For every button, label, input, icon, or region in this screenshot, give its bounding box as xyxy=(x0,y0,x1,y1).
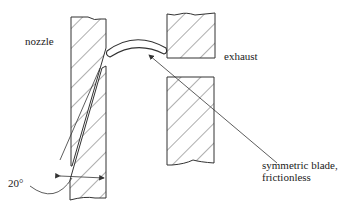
exhaust-upper-wall xyxy=(167,13,215,58)
angle-leader-curve xyxy=(30,178,72,194)
blade-label-line1: symmetric blade, xyxy=(262,159,338,171)
blade xyxy=(106,40,166,57)
blade-label-line2: frictionless xyxy=(262,171,311,183)
exhaust-label: exhaust xyxy=(224,50,258,62)
angle-label: 20° xyxy=(8,177,23,189)
nozzle-label: nozzle xyxy=(25,35,54,47)
